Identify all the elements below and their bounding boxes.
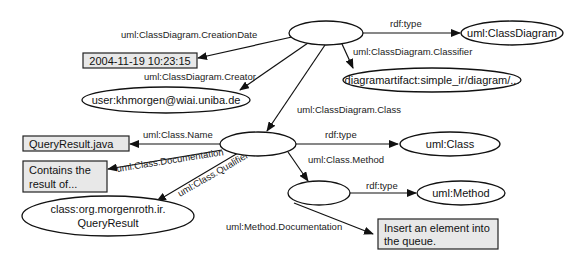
- node-creation-date-label: 2004-11-19 10:23:15: [89, 55, 190, 67]
- node-uml-method-label: uml:Method: [432, 187, 489, 199]
- edge-cd-class: [267, 45, 325, 131]
- label-cd-type: rdf:type: [390, 18, 422, 29]
- edge-cd-classifier: [342, 44, 353, 68]
- node-qualifier: [22, 196, 194, 236]
- label-cd-classifier: uml:ClassDiagram.Classifier: [353, 46, 472, 57]
- node-query-result-java-label: QueryResult.java: [29, 138, 114, 150]
- node-qualifier-line2: QueryResult: [77, 217, 138, 229]
- node-creator-label: user:khmorgen@wiai.uniba.de: [92, 94, 241, 106]
- node-class-documentation-line1: Contains the: [29, 164, 91, 176]
- label-cd-creation-date: uml:ClassDiagram.CreationDate: [121, 29, 257, 40]
- label-class-method: uml:Class.Method: [308, 154, 384, 165]
- edge-class-method: [288, 152, 308, 181]
- edge-cd-creation-date: [198, 37, 292, 58]
- node-class: [220, 132, 296, 156]
- node-method: [288, 181, 350, 205]
- label-cd-creator: uml:ClassDiagram.Creator: [144, 71, 256, 82]
- node-qualifier-line1: class:org.morgenroth.ir.: [51, 203, 166, 215]
- label-cd-class: uml:ClassDiagram.Class: [297, 104, 401, 115]
- label-method-documentation: uml:Method.Documentation: [226, 221, 342, 232]
- rdf-graph-diagram: rdf:type uml:ClassDiagram.CreationDate u…: [0, 0, 579, 266]
- node-method-documentation-line2: the queue.: [384, 235, 436, 247]
- node-classifier-label: diagramartifact:simple_ir/diagram/...: [345, 74, 520, 86]
- edge-cd-creator: [240, 43, 308, 90]
- label-class-type: rdf:type: [325, 129, 357, 140]
- label-method-type: rdf:type: [366, 180, 398, 191]
- node-class-diagram: [289, 21, 363, 45]
- node-uml-class-label: uml:Class: [426, 138, 475, 150]
- node-uml-class-diagram-label: uml:ClassDiagram: [467, 27, 557, 39]
- label-class-name: uml:Class.Name: [143, 129, 213, 140]
- nodes: uml:ClassDiagram 2004-11-19 10:23:15 dia…: [22, 21, 563, 249]
- node-method-documentation-line1: Insert an element into: [384, 222, 490, 234]
- node-class-documentation-line2: result of...: [29, 178, 77, 190]
